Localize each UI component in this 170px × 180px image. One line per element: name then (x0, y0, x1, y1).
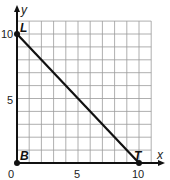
origin-label: 0 (8, 168, 14, 180)
y-tick-10: 10 (1, 28, 13, 40)
grid (17, 21, 151, 163)
x-axis-label: x (156, 148, 164, 162)
x-tick-10: 10 (132, 168, 144, 180)
y-axis-arrow-icon (14, 5, 20, 12)
y-axis-label: y (20, 3, 28, 17)
x-tick-5: 5 (74, 168, 80, 180)
y-tick-5: 5 (7, 94, 13, 106)
point-label-T: T (134, 149, 143, 163)
coordinate-plane: y x 10 5 0 5 10 L B T (0, 0, 170, 180)
point-label-L: L (20, 21, 27, 35)
point-label-B: B (20, 149, 29, 163)
